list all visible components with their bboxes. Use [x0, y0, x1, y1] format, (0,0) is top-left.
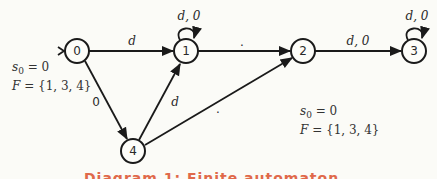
edge-1-1-self-loop: d, 0: [178, 9, 201, 40]
svg-text:d, 0: d, 0: [347, 34, 370, 48]
state-node-1: 1: [174, 39, 198, 63]
info-right: s0 = 0 F = {1, 3, 4}: [300, 104, 379, 138]
edge-0-1: d: [89, 34, 173, 51]
edge-1-2: .: [198, 35, 290, 51]
start-state-def: s0 = 0: [300, 104, 379, 123]
state-node-2: 2: [291, 39, 315, 63]
info-left: s0 = 0 F = {1, 3, 4}: [12, 60, 91, 94]
svg-text:0: 0: [73, 44, 81, 58]
figure-caption: Diagram 1: Finite automaton: [84, 170, 339, 179]
svg-text:0: 0: [92, 95, 100, 109]
edge-4-2: .: [145, 58, 292, 145]
svg-text:1: 1: [182, 44, 190, 58]
start-arrow: [58, 47, 64, 55]
svg-text:2: 2: [299, 44, 307, 58]
edge-2-3: d, 0: [315, 34, 401, 51]
final-states-def: F = {1, 3, 4}: [300, 123, 379, 138]
svg-text:4: 4: [129, 144, 137, 158]
svg-text:3: 3: [410, 44, 418, 58]
svg-text:.: .: [216, 102, 220, 116]
state-node-3: 3: [402, 39, 426, 63]
svg-text:d: d: [128, 34, 136, 48]
svg-text:d, 0: d, 0: [178, 9, 201, 23]
svg-text:d: d: [171, 95, 179, 109]
svg-text:d, 0: d, 0: [406, 9, 429, 23]
svg-text:.: .: [240, 35, 244, 49]
state-node-4: 4: [121, 139, 145, 163]
final-states-def: F = {1, 3, 4}: [12, 79, 91, 94]
edge-3-3-self-loop: d, 0: [406, 9, 429, 40]
start-state-def: s0 = 0: [12, 60, 91, 79]
